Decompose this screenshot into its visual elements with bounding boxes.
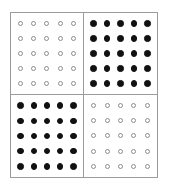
filled-circle-marker	[104, 20, 111, 27]
marker-cell	[127, 98, 140, 113]
marker-cell	[141, 159, 154, 174]
marker-cell	[27, 159, 40, 174]
open-circle-marker	[131, 118, 136, 123]
open-circle-marker	[18, 36, 23, 41]
marker-cell	[141, 144, 154, 159]
marker-cell	[54, 76, 67, 91]
marker-cell	[127, 159, 140, 174]
filled-circle-marker	[57, 133, 64, 140]
marker-cell	[127, 113, 140, 128]
marker-cell	[87, 61, 100, 76]
open-circle-marker	[91, 103, 96, 108]
filled-circle-marker	[17, 102, 24, 109]
quadrant-top-left	[11, 13, 84, 95]
open-circle-marker	[31, 81, 36, 86]
marker-cell	[14, 76, 27, 91]
filled-circle-marker	[144, 80, 151, 87]
filled-circle-marker	[144, 20, 151, 27]
marker-cell	[40, 61, 53, 76]
filled-circle-marker	[17, 163, 24, 170]
marker-cell	[100, 61, 113, 76]
marker-cell	[67, 61, 80, 76]
marker-cell	[40, 144, 53, 159]
open-circle-marker	[31, 51, 36, 56]
marker-cell	[40, 113, 53, 128]
filled-circle-marker	[70, 133, 77, 140]
marker-cell	[27, 16, 40, 31]
marker-cell	[87, 128, 100, 143]
filled-circle-marker	[44, 118, 51, 125]
filled-circle-marker	[144, 65, 151, 72]
marker-cell	[54, 46, 67, 61]
marker-cell	[141, 46, 154, 61]
marker-cell	[27, 98, 40, 113]
marker-cell	[127, 144, 140, 159]
open-circle-marker	[58, 66, 63, 71]
figure-root	[0, 0, 169, 189]
marker-cell	[127, 31, 140, 46]
marker-cell	[87, 159, 100, 174]
open-circle-marker	[44, 66, 49, 71]
marker-cell	[114, 46, 127, 61]
marker-cell	[14, 16, 27, 31]
open-circle-marker	[44, 81, 49, 86]
open-circle-marker	[91, 149, 96, 154]
filled-circle-marker	[70, 163, 77, 170]
open-circle-marker	[105, 149, 110, 154]
marker-cell	[67, 46, 80, 61]
marker-cell	[114, 61, 127, 76]
marker-cell	[27, 46, 40, 61]
filled-circle-marker	[44, 133, 51, 140]
filled-circle-marker	[117, 20, 124, 27]
marker-cell	[14, 61, 27, 76]
filled-circle-marker	[31, 102, 38, 109]
marker-cell	[141, 61, 154, 76]
filled-circle-marker	[70, 148, 77, 155]
open-circle-marker	[145, 149, 150, 154]
open-circle-marker	[105, 118, 110, 123]
open-circle-marker	[105, 164, 110, 169]
marker-cell	[114, 159, 127, 174]
filled-circle-marker	[117, 80, 124, 87]
marker-cell	[141, 16, 154, 31]
open-circle-marker	[44, 36, 49, 41]
marker-cell	[27, 31, 40, 46]
marker-cell	[27, 144, 40, 159]
marker-cell	[67, 144, 80, 159]
open-circle-marker	[91, 164, 96, 169]
marker-cell	[54, 61, 67, 76]
marker-cell	[14, 31, 27, 46]
marker-cell	[87, 16, 100, 31]
marker-cell	[54, 113, 67, 128]
open-circle-marker	[105, 103, 110, 108]
open-circle-marker	[145, 133, 150, 138]
marker-cell	[40, 159, 53, 174]
open-circle-marker	[58, 51, 63, 56]
marker-cell	[100, 159, 113, 174]
marker-cell	[100, 144, 113, 159]
marker-cell	[127, 61, 140, 76]
marker-cell	[54, 159, 67, 174]
open-circle-marker	[131, 149, 136, 154]
filled-circle-marker	[104, 65, 111, 72]
quadrant-top-right	[84, 13, 157, 95]
open-circle-marker	[105, 133, 110, 138]
quadrant-bottom-right	[84, 95, 157, 177]
filled-circle-marker	[90, 80, 97, 87]
marker-cell	[27, 61, 40, 76]
open-circle-marker	[71, 51, 76, 56]
marker-cell	[27, 76, 40, 91]
filled-circle-marker	[104, 80, 111, 87]
filled-circle-marker	[104, 35, 111, 42]
marker-cell	[87, 113, 100, 128]
filled-circle-marker	[131, 35, 138, 42]
filled-circle-marker	[70, 118, 77, 125]
filled-circle-marker	[131, 50, 138, 57]
figure-border	[10, 12, 158, 178]
filled-circle-marker	[44, 148, 51, 155]
filled-circle-marker	[131, 80, 138, 87]
marker-cell	[40, 128, 53, 143]
filled-circle-marker	[104, 50, 111, 57]
marker-cell	[67, 159, 80, 174]
open-circle-marker	[58, 36, 63, 41]
